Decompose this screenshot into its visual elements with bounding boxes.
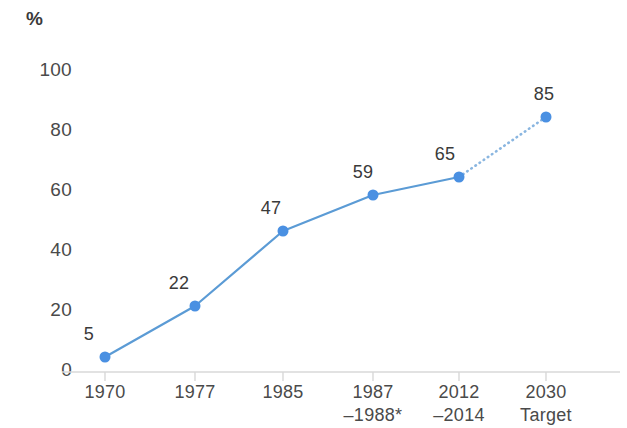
data-point-marker xyxy=(100,352,111,363)
data-point-marker xyxy=(278,226,289,237)
data-point-value-label: 85 xyxy=(534,84,555,105)
data-point-value-label: 65 xyxy=(435,144,456,165)
plot-area xyxy=(0,0,627,428)
data-point-marker xyxy=(454,172,465,183)
data-point-marker xyxy=(541,112,552,123)
data-point-value-label: 47 xyxy=(261,198,282,219)
series-line-projection xyxy=(459,117,546,177)
data-point-value-label: 59 xyxy=(353,162,374,183)
chart-container: % 020406080100 52247596585 1970197719851… xyxy=(0,0,627,428)
x-axis-tick-label-line1: 2030 xyxy=(486,381,606,404)
x-axis-tick-label-group: 2030Target xyxy=(486,381,606,427)
x-axis-tick-label-line2: Target xyxy=(486,404,606,427)
data-point-value-label: 5 xyxy=(84,324,94,345)
data-point-marker xyxy=(190,301,201,312)
data-point-marker xyxy=(368,190,379,201)
data-point-value-label: 22 xyxy=(169,273,190,294)
series-line-solid xyxy=(105,177,459,357)
